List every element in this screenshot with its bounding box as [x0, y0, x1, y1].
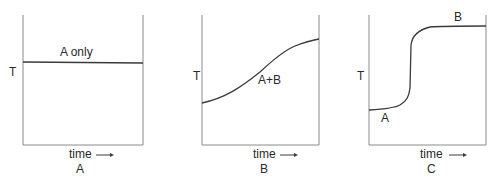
panel-b-caption: B — [260, 163, 268, 176]
panel-c: A B T time C — [330, 0, 499, 183]
panel-a-y-label: T — [9, 66, 16, 79]
panel-a-curve — [23, 62, 143, 63]
arrowhead-icon — [463, 153, 467, 157]
panel-a-frame — [23, 15, 143, 145]
panel-a: A only T time A — [0, 0, 165, 183]
panel-b: A+B T time B — [165, 0, 330, 183]
panel-c-curve — [369, 26, 486, 110]
panel-c-y-label: T — [357, 70, 364, 83]
panel-b-curve-label: A+B — [258, 74, 281, 87]
panel-c-frame — [369, 15, 486, 145]
panel-c-curve-label-b: B — [454, 11, 462, 24]
panel-c-curve-label-a: A — [381, 112, 389, 125]
panel-c-plot — [330, 0, 499, 183]
panel-a-curve-label: A only — [60, 46, 93, 59]
panel-c-caption: C — [427, 163, 436, 176]
arrowhead-icon — [294, 153, 298, 157]
panel-a-caption: A — [76, 163, 84, 176]
panel-b-y-label: T — [193, 70, 200, 83]
panel-a-x-label: time — [69, 148, 92, 161]
panel-c-x-label: time — [420, 148, 443, 161]
panel-b-plot — [165, 0, 330, 183]
panel-b-x-label: time — [253, 148, 276, 161]
panel-b-curve — [202, 39, 319, 103]
arrowhead-icon — [110, 153, 114, 157]
